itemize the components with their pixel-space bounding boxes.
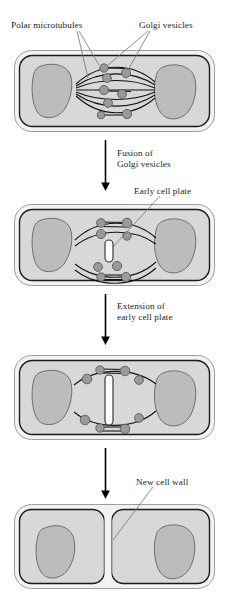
golgi-vesicle: [100, 64, 108, 72]
golgi-vesicle: [135, 414, 144, 423]
cell-panel-4: [15, 487, 215, 589]
golgi-vesicle: [96, 424, 104, 432]
golgi-vesicle: [121, 272, 130, 281]
golgi-vesicle: [82, 374, 92, 384]
golgi-vesicle: [97, 219, 106, 228]
golgi-vesicle: [94, 263, 103, 272]
golgi-vesicle: [122, 218, 132, 228]
golgi-vesicle: [97, 111, 105, 119]
golgi-vesicle: [97, 273, 105, 281]
golgi-vesicle: [122, 109, 131, 118]
golgi-vesicle: [123, 232, 131, 240]
arrow-label-extension-of-early-cell-plate: Extension of early cell plate: [117, 301, 173, 322]
new-cell-wall: [105, 505, 112, 588]
golgi-vesicle: [104, 99, 113, 108]
golgi-vesicle: [103, 74, 112, 83]
label-polar-microtubules: Polar microtubules: [11, 20, 82, 31]
microtubule: [101, 227, 126, 228]
label-golgi-vesicles: Golgi vesicles: [139, 20, 193, 31]
golgi-vesicle: [80, 415, 90, 425]
golgi-vesicle: [121, 68, 130, 77]
cell-panel-1: [15, 31, 215, 132]
cytokinesis-diagram: [0, 0, 229, 601]
golgi-vesicle: [120, 366, 130, 376]
cell-panel-2: [15, 196, 215, 286]
golgi-vesicle: [120, 424, 130, 434]
nucleus-right: [154, 371, 195, 426]
golgi-vesicle: [118, 90, 127, 99]
early-cell-plate: [105, 240, 113, 262]
cell-panel-3: [15, 356, 215, 440]
golgi-vesicle: [112, 261, 121, 270]
label-new-cell-wall: New cell wall: [136, 477, 188, 488]
arrow-label-fusion-of-golgi-vesicles: Fusion of Golgi vesicles: [117, 148, 171, 169]
golgi-vesicle: [99, 85, 108, 94]
golgi-vesicle: [135, 376, 144, 385]
label-early-cell-plate: Early cell plate: [134, 186, 191, 197]
extended-cell-plate: [105, 375, 113, 425]
golgi-vesicle: [96, 366, 104, 374]
golgi-vesicle: [96, 229, 105, 238]
